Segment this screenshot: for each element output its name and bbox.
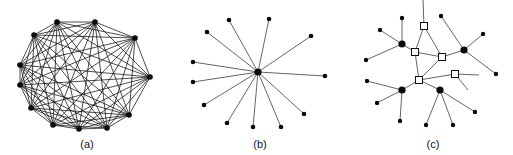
star-leaf-node: [323, 74, 328, 79]
mesh-edge: [95, 22, 135, 38]
mesh-edge: [53, 22, 95, 125]
star-edge: [258, 19, 269, 72]
router-node: [439, 54, 446, 61]
star-leaf-node: [267, 17, 272, 22]
hub-leaf-edge: [464, 34, 483, 50]
mesh-node: [126, 112, 132, 118]
star-edge: [258, 72, 304, 114]
star-edge: [258, 72, 281, 127]
panel-c-label: (c): [427, 138, 440, 150]
mesh-node: [147, 74, 153, 80]
star-edge: [204, 72, 258, 105]
mesh-edge: [20, 22, 95, 85]
router-node: [421, 23, 428, 30]
star-leaf-node: [251, 125, 256, 130]
leaf-node: [365, 79, 369, 83]
hub-node: [436, 86, 443, 93]
backbone-edge: [424, 26, 442, 57]
leaf-node: [494, 72, 498, 76]
hub-node: [398, 86, 405, 93]
mesh-node: [104, 125, 110, 131]
mesh-node: [31, 32, 37, 38]
hub-leaf-edge: [441, 16, 464, 50]
panel-a-complete-graph: (a): [17, 19, 153, 150]
mesh-edge: [79, 22, 95, 129]
hub-node: [398, 40, 405, 47]
hub-leaf-edge: [366, 44, 402, 60]
leaf-node: [481, 32, 485, 36]
leaf-node: [473, 110, 477, 114]
leaf-node: [424, 123, 428, 127]
mesh-edge: [34, 35, 135, 38]
mesh-edge: [107, 77, 150, 128]
leaf-node: [375, 101, 379, 105]
hub-leaf-edge: [400, 90, 402, 121]
leaf-node: [400, 16, 404, 20]
star-edge: [258, 36, 311, 72]
hub-leaf-edge: [426, 90, 440, 125]
mesh-edge: [34, 22, 95, 35]
hub-leaf-edge: [380, 30, 402, 44]
star-edge: [229, 20, 258, 72]
mesh-edge: [135, 38, 150, 77]
panel-a-label: (a): [80, 138, 93, 150]
hub-node: [460, 46, 467, 53]
leaf-node: [378, 28, 382, 32]
network-topology-diagram: (a) (b) (c): [0, 0, 513, 155]
star-edge: [193, 62, 258, 72]
star-edge: [207, 32, 258, 72]
star-leaf-node: [205, 30, 210, 35]
star-leaf-node: [191, 60, 196, 65]
star-leaf-node: [202, 103, 207, 108]
star-edge: [193, 72, 258, 82]
star-leaf-node: [279, 125, 284, 130]
mesh-node: [28, 105, 34, 111]
hierarchy-nodes: [364, 14, 498, 127]
mesh-node: [17, 82, 23, 88]
mesh-node: [76, 126, 82, 132]
mesh-edge: [31, 77, 150, 108]
router-node: [452, 71, 459, 78]
star-edge: [258, 72, 325, 76]
router-node: [416, 77, 423, 84]
mesh-node: [132, 35, 138, 41]
star-nodes: [191, 17, 328, 130]
star-edge: [253, 72, 258, 127]
mesh-edge: [20, 65, 150, 77]
mesh-node: [92, 19, 98, 25]
router-node: [412, 49, 419, 56]
panel-c-hierarchical-graph: (c): [364, 0, 498, 150]
leaf-node: [364, 58, 368, 62]
mesh-edge: [129, 77, 150, 115]
star-leaf-node: [191, 80, 196, 85]
mesh-node: [54, 19, 60, 25]
backbone-edge: [415, 52, 419, 80]
star-leaf-node: [225, 121, 230, 126]
leaf-node: [439, 14, 443, 18]
hub-leaf-edge: [367, 81, 402, 90]
star-edge: [227, 72, 258, 123]
panel-b-star-graph: (b): [191, 17, 328, 150]
hub-leaf-edge: [464, 50, 496, 74]
hierarchy-edges: [366, 0, 496, 125]
star-leaf-node: [309, 34, 314, 39]
backbone-edge: [415, 52, 442, 57]
hub-leaf-edge: [440, 90, 453, 125]
mesh-node: [50, 122, 56, 128]
star-leaf-node: [302, 112, 307, 117]
mesh-node: [17, 62, 23, 68]
leaf-node: [398, 119, 402, 123]
panel-b-label: (b): [253, 138, 266, 150]
star-center-node: [254, 68, 261, 75]
hub-leaf-edge: [440, 90, 475, 112]
star-leaf-node: [227, 18, 232, 23]
mesh-edge: [129, 38, 135, 115]
leaf-node: [451, 123, 455, 127]
hub-leaf-edge: [377, 90, 402, 103]
